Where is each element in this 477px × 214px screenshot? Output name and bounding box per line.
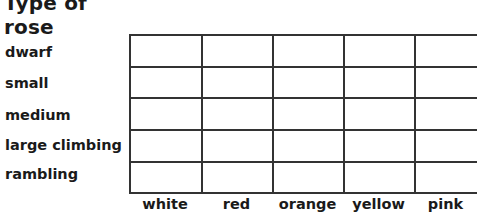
grid-line <box>201 34 203 193</box>
grid-line <box>129 161 477 163</box>
grid-line <box>343 34 345 193</box>
grid-line <box>129 97 477 99</box>
col-label-pink: pink <box>414 195 477 213</box>
title-line-2: rose <box>4 15 87 39</box>
col-label-orange: orange <box>272 195 343 213</box>
table-title: Type of rose <box>4 0 87 39</box>
col-label-red: red <box>201 195 272 213</box>
row-label-rambling: rambling <box>5 165 78 183</box>
grid-line <box>414 34 416 193</box>
grid-line <box>129 192 477 194</box>
grid-line <box>272 34 274 193</box>
row-label-medium: medium <box>5 106 71 124</box>
grid-line <box>129 66 477 68</box>
row-label-dwarf: dwarf <box>5 43 52 61</box>
grid-line <box>129 34 131 193</box>
grid-line <box>129 129 477 131</box>
title-line-1: Type of <box>4 0 87 15</box>
grid-line <box>129 34 477 36</box>
row-label-small: small <box>5 74 48 92</box>
col-label-white: white <box>129 195 201 213</box>
row-label-large-climbing: large climbing <box>5 136 122 154</box>
col-label-yellow: yellow <box>343 195 414 213</box>
